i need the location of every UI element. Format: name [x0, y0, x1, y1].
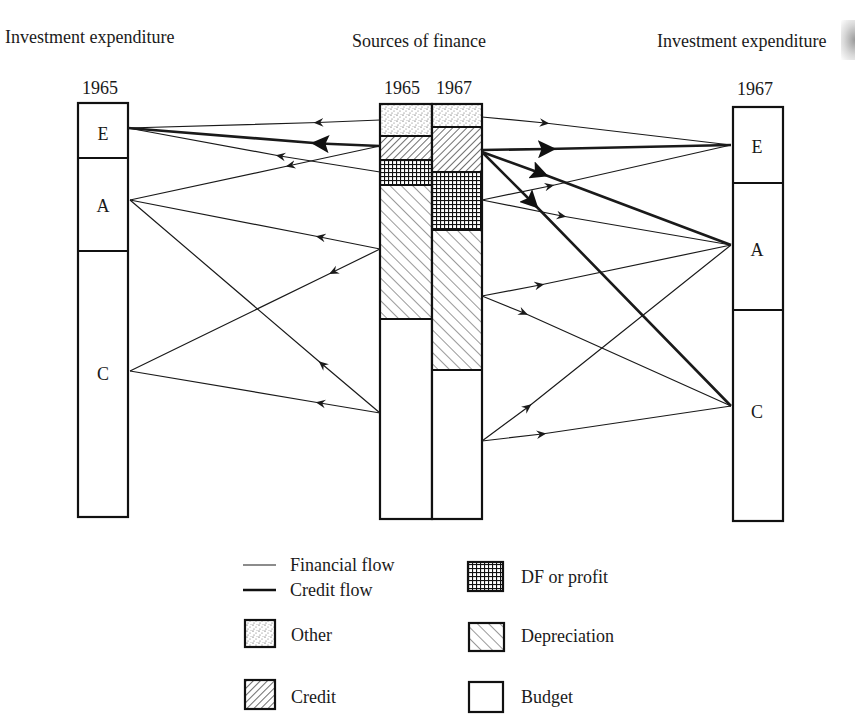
flow-diagram [0, 0, 855, 728]
legend-credit-label: Credit [291, 688, 336, 706]
legend-budget-label: Budget [521, 688, 573, 706]
flow-1967-credit-to-C [482, 152, 731, 406]
flow-1967-other-to-E [482, 117, 731, 145]
legend-credit-flow-label: Credit flow [290, 581, 373, 599]
legend-credit-swatch [245, 680, 275, 709]
flow-1967-df-to-E [482, 145, 731, 200]
sources-bar-1965 [380, 104, 432, 519]
flows-1965 [128, 120, 380, 413]
investment-bar-1965 [78, 103, 128, 517]
flow-1965-credit-to-E [128, 128, 380, 146]
right-segment-C: C [751, 403, 763, 421]
flow-1965-credit-to-A [130, 146, 380, 200]
flow-1967-depr-to-A [482, 245, 731, 296]
flows-1967 [482, 117, 731, 441]
flow-1967-credit-to-E [482, 145, 731, 150]
flow-1967-budget-to-C [482, 406, 731, 441]
right-segment-A: A [751, 241, 764, 259]
legend-other-swatch [245, 620, 275, 647]
legend-budget-swatch [469, 682, 503, 712]
flow-1965-budget-to-C [130, 371, 380, 413]
flow-1965-budget-to-A [130, 200, 380, 413]
flow-1965-depr-to-A [130, 200, 380, 249]
legend-df-swatch [468, 562, 503, 591]
left-segment-C: C [97, 365, 109, 383]
flow-1965-df-to-E [128, 128, 380, 172]
investment-bar-1967 [733, 107, 783, 521]
flow-1967-depr-to-C [482, 296, 731, 406]
legend-depreciation-swatch [469, 623, 504, 651]
legend-depreciation-label: Depreciation [521, 627, 614, 645]
sources-bar-1967 [432, 104, 482, 519]
legend-swatches [243, 562, 504, 712]
legend-financial-flow-label: Financial flow [290, 556, 394, 574]
legend-df-label: DF or profit [521, 568, 608, 586]
flow-1967-df-to-A [482, 200, 731, 245]
left-segment-A: A [97, 197, 110, 215]
flow-1967-credit-to-A [482, 152, 731, 245]
left-segment-E: E [98, 125, 109, 143]
flow-1965-depr-to-C [130, 249, 380, 371]
flow-1965-other-to-E [128, 120, 380, 128]
legend-other-label: Other [291, 626, 332, 644]
right-segment-E: E [752, 138, 763, 156]
